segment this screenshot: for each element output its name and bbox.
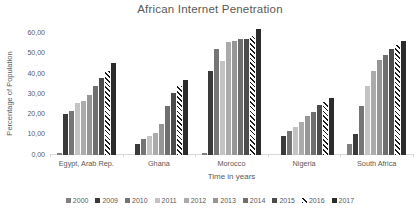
- y-tick-label: 10,00: [15, 130, 45, 137]
- legend-label: 2013: [220, 197, 236, 204]
- bar-2015: [389, 49, 394, 154]
- axis-tick-mark: [123, 154, 124, 157]
- bar-2012: [371, 71, 376, 154]
- bar-2013: [232, 41, 237, 154]
- category-label: Ghana: [123, 159, 196, 168]
- bar-2016: [323, 102, 328, 154]
- bar-2010: [141, 139, 146, 155]
- bar-2015: [99, 78, 104, 155]
- bar-2009: [208, 71, 213, 155]
- bar-2012: [81, 101, 86, 154]
- category-label: South Africa: [340, 159, 413, 168]
- bar-2011: [75, 103, 80, 155]
- axis-tick-mark: [50, 154, 51, 157]
- bar-2014: [383, 55, 388, 154]
- legend-label: 2000: [73, 197, 89, 204]
- y-tick-label: 50,00: [15, 49, 45, 56]
- y-tick-label: 0,00: [15, 151, 45, 158]
- bar-2000: [347, 144, 352, 155]
- category-label: Nigeria: [268, 159, 341, 168]
- legend-label: 2015: [279, 197, 295, 204]
- bar-2013: [377, 60, 382, 154]
- legend-item-2014: 2014: [243, 197, 266, 204]
- legend-swatch-icon: [155, 198, 160, 203]
- bar-2016: [395, 45, 400, 154]
- bar-group-nigeria: [268, 33, 341, 155]
- bar-2000: [202, 153, 207, 154]
- legend-item-2012: 2012: [184, 197, 207, 204]
- bar-2011: [365, 86, 370, 155]
- bar-2014: [165, 106, 170, 154]
- bar-2015: [317, 105, 322, 155]
- bar-2000: [57, 153, 62, 154]
- bar-2009: [281, 136, 286, 155]
- bar-2014: [311, 112, 316, 155]
- legend-swatch-icon: [184, 198, 189, 203]
- legend-item-2013: 2013: [213, 197, 236, 204]
- bar-2014: [238, 39, 243, 154]
- legend-item-2009: 2009: [95, 197, 118, 204]
- legend-item-2015: 2015: [272, 197, 295, 204]
- bar-2017: [111, 63, 116, 154]
- bar-2017: [329, 98, 334, 154]
- legend-swatch-icon: [243, 198, 248, 203]
- legend-swatch-icon: [272, 198, 277, 203]
- bar-2017: [401, 41, 406, 155]
- legend-item-2010: 2010: [125, 197, 148, 204]
- bar-2013: [159, 124, 164, 154]
- bar-2009: [63, 114, 68, 155]
- y-tick-label: 30,00: [15, 90, 45, 97]
- axis-tick-mark: [195, 154, 196, 157]
- bar-2011: [220, 61, 225, 154]
- y-tick-label: 60,00: [15, 29, 45, 36]
- chart-title: African Internet Penetration: [0, 3, 420, 15]
- legend-label: 2009: [102, 197, 118, 204]
- bar-2014: [93, 86, 98, 155]
- bar-2010: [359, 106, 364, 155]
- bar-group-ghana: [123, 33, 196, 155]
- bar-2011: [293, 127, 298, 155]
- legend-label: 2014: [250, 197, 266, 204]
- legend-label: 2010: [132, 197, 148, 204]
- y-tick-label: 20,00: [15, 110, 45, 117]
- x-axis-title: Time in years: [50, 172, 413, 181]
- legend-label: 2017: [339, 197, 355, 204]
- bar-2016: [177, 86, 182, 155]
- y-axis-title: Percentage of Population: [5, 19, 16, 169]
- legend: 2000200920102011201220132014201520162017: [0, 197, 420, 204]
- bar-2016: [250, 36, 255, 154]
- legend-swatch-icon: [302, 198, 307, 203]
- bar-2009: [135, 144, 140, 155]
- bar-2013: [305, 116, 310, 155]
- legend-item-2000: 2000: [66, 197, 89, 204]
- legend-item-2016: 2016: [302, 197, 325, 204]
- bar-2012: [153, 133, 158, 154]
- legend-swatch-icon: [95, 198, 100, 203]
- bar-2009: [353, 134, 358, 154]
- legend-swatch-icon: [66, 198, 71, 203]
- legend-label: 2011: [162, 197, 177, 204]
- category-label: Egypt, Arab Rep.: [50, 159, 123, 168]
- legend-swatch-icon: [332, 198, 337, 203]
- bar-2010: [287, 131, 292, 154]
- bar-2011: [147, 136, 152, 154]
- bar-2015: [171, 93, 176, 154]
- legend-item-2017: 2017: [332, 197, 355, 204]
- bar-2015: [244, 39, 249, 155]
- legend-label: 2016: [309, 197, 325, 204]
- bar-2013: [87, 95, 92, 155]
- category-label: Morocco: [195, 159, 268, 168]
- legend-swatch-icon: [125, 198, 130, 203]
- legend-swatch-icon: [213, 198, 218, 203]
- bar-group-egypt-arab-rep: [50, 33, 123, 155]
- bar-group-morocco: [195, 33, 268, 155]
- bar-2012: [299, 122, 304, 155]
- bar-2010: [69, 111, 74, 155]
- axis-tick-mark: [340, 154, 341, 157]
- bar-group-south-africa: [340, 33, 413, 155]
- legend-label: 2012: [191, 197, 207, 204]
- bar-2017: [256, 29, 261, 154]
- bar-2012: [226, 42, 231, 154]
- y-tick-label: 40,00: [15, 70, 45, 77]
- bar-chart: African Internet Penetration Percentage …: [0, 0, 420, 223]
